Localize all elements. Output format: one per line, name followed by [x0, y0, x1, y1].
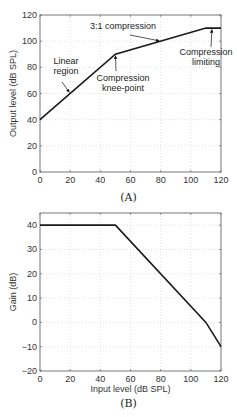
- x-tick-label: 120: [213, 175, 228, 185]
- annotation-text: Compression: [96, 73, 149, 83]
- annotation-arrow: [130, 35, 159, 41]
- y-tick-label: −20: [22, 366, 37, 376]
- chart-panel-a: 020406080100120020406080100120Output lev…: [8, 10, 233, 204]
- x-tick-label: 120: [213, 374, 228, 384]
- y-tick-label: 80: [27, 62, 37, 72]
- chart-figure: 020406080100120020406080100120Output lev…: [0, 0, 237, 417]
- y-tick-label: 20: [27, 269, 37, 279]
- annotation-text: Compression: [179, 47, 232, 57]
- y-tick-label: 0: [32, 317, 37, 327]
- annotation-text: Linear: [53, 56, 78, 66]
- y-tick-label: 120: [22, 10, 37, 20]
- x-tick-label: 0: [37, 175, 42, 185]
- y-tick-label: 60: [27, 89, 37, 99]
- panel-caption: (B): [120, 397, 137, 410]
- x-tick-label: 100: [183, 175, 198, 185]
- annotation-arrow: [115, 56, 116, 71]
- y-tick-label: 20: [27, 141, 37, 151]
- y-tick-label: 0: [32, 167, 37, 177]
- y-tick-label: 40: [27, 115, 37, 125]
- panel-caption: (A): [120, 191, 137, 204]
- annotation-text: limiting: [192, 57, 220, 67]
- y-axis-label: Gain (dB): [8, 273, 18, 312]
- x-tick-label: 60: [125, 175, 135, 185]
- x-tick-label: 0: [37, 374, 42, 384]
- y-tick-label: 100: [22, 36, 37, 46]
- annotation-text: knee-point: [102, 83, 145, 93]
- x-tick-label: 100: [183, 374, 198, 384]
- y-tick-label: −10: [22, 342, 37, 352]
- y-tick-label: 40: [27, 220, 37, 230]
- x-tick-label: 20: [65, 374, 75, 384]
- chart-panel-b: 020406080100120−20−10010203040Gain (dB)I…: [8, 213, 229, 410]
- x-tick-label: 20: [65, 175, 75, 185]
- x-axis-label: Input level (dB SPL): [90, 384, 170, 394]
- y-tick-label: 10: [27, 293, 37, 303]
- x-tick-label: 60: [125, 374, 135, 384]
- x-tick-label: 80: [156, 175, 166, 185]
- annotation-arrow: [62, 82, 69, 92]
- y-axis-label: Output level (dB SPL): [8, 50, 18, 137]
- x-tick-label: 80: [156, 374, 166, 384]
- annotation-arrow: [211, 30, 212, 47]
- x-tick-label: 40: [95, 374, 105, 384]
- y-tick-label: 30: [27, 244, 37, 254]
- annotation-text: region: [53, 66, 78, 76]
- annotation-text: 3:1 compression: [90, 21, 156, 31]
- x-tick-label: 40: [95, 175, 105, 185]
